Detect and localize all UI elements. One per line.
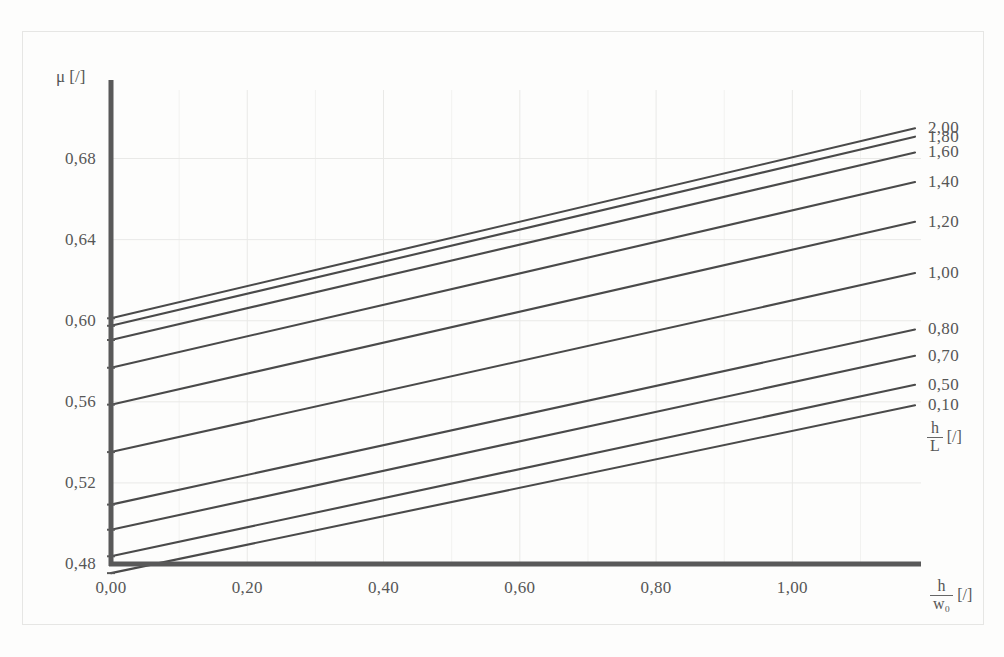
legend-entry-1-00: 1,00 xyxy=(928,263,959,283)
legend-title: h L [/] xyxy=(927,420,962,455)
legend-entry-1-60: 1,60 xyxy=(928,142,959,162)
series-line-1-40 xyxy=(111,182,915,368)
series-line-0-70 xyxy=(111,356,915,530)
x-axis-denominator: w₀ xyxy=(930,596,953,613)
y-axis-title: μ [/] xyxy=(56,67,85,87)
data-series-lines xyxy=(111,128,915,573)
series-line-1-20 xyxy=(111,222,915,405)
x-axis-unit: [/] xyxy=(953,586,972,604)
x-axis-tick-label: 0,20 xyxy=(232,578,263,598)
series-line-1-80 xyxy=(111,137,915,326)
y-axis-tick-label: 0,52 xyxy=(44,473,96,493)
legend-title-unit: [/] xyxy=(943,428,962,446)
legend-entry-1-40: 1,40 xyxy=(928,172,959,192)
y-axis-tick-label: 0,68 xyxy=(44,149,96,169)
y-axis-tick-label: 0,60 xyxy=(44,311,96,331)
legend-title-numerator: h xyxy=(927,420,943,438)
x-axis-title: h w₀ [/] xyxy=(930,578,972,613)
grid-lines xyxy=(111,90,921,564)
x-axis-fraction: h w₀ xyxy=(930,578,953,613)
chart-page: μ [/] h w₀ [/] h L [/] 0,480,520,560,600… xyxy=(0,0,1004,657)
legend-entry-0-50: 0,50 xyxy=(928,375,959,395)
legend-title-fraction: h L xyxy=(927,420,943,455)
y-axis-tick-label: 0,64 xyxy=(44,230,96,250)
legend-entry-1-20: 1,20 xyxy=(928,212,959,232)
legend-title-denominator: L xyxy=(927,438,943,455)
legend-entry-0-10: 0,10 xyxy=(928,395,959,415)
series-line-1-60 xyxy=(111,152,915,340)
series-line-0-80 xyxy=(111,329,915,504)
legend-entry-0-80: 0,80 xyxy=(928,319,959,339)
series-line-0-10 xyxy=(111,405,915,573)
x-axis-tick-label: 0,00 xyxy=(96,578,127,598)
axis-lines xyxy=(109,80,921,566)
x-axis-tick-label: 0,40 xyxy=(368,578,399,598)
x-axis-tick-label: 0,60 xyxy=(504,578,535,598)
y-axis-tick-label: 0,48 xyxy=(44,554,96,574)
y-axis-tick-label: 0,56 xyxy=(44,392,96,412)
plot-canvas xyxy=(0,0,1004,657)
series-line-2-00 xyxy=(111,128,915,318)
x-axis-tick-label: 1,00 xyxy=(777,578,808,598)
series-line-1-00 xyxy=(111,273,915,452)
x-axis-tick-label: 0,80 xyxy=(641,578,672,598)
x-axis-numerator: h xyxy=(930,578,953,596)
legend-entry-0-70: 0,70 xyxy=(928,346,959,366)
series-line-0-50 xyxy=(111,385,915,557)
